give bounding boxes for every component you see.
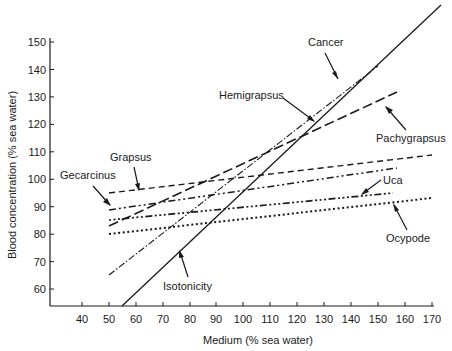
svg-text:130: 130: [28, 91, 46, 103]
annotation-gecarcinus: Gecarcinus: [60, 169, 116, 206]
annotation-ocypode: Ocypode: [386, 203, 430, 244]
svg-text:100: 100: [234, 313, 252, 325]
svg-text:130: 130: [315, 313, 333, 325]
chart: 150 140 130 120 110 100 90 80 70 60 40 5…: [0, 0, 452, 351]
svg-text:120: 120: [28, 118, 46, 130]
svg-text:80: 80: [184, 313, 196, 325]
annotation-uca: Uca: [361, 174, 403, 195]
svg-text:140: 140: [28, 64, 46, 76]
annotation-cancer: Cancer: [308, 36, 344, 79]
line-cancer-isotonicity: [122, 5, 441, 306]
svg-text:40: 40: [76, 313, 88, 325]
svg-text:90: 90: [210, 313, 222, 325]
svg-text:70: 70: [34, 256, 46, 268]
annotation-isotonicity: Isotonicity: [163, 250, 212, 292]
svg-text:150: 150: [28, 36, 46, 48]
svg-text:70: 70: [157, 313, 169, 325]
arrowhead-icon: [393, 203, 399, 212]
svg-text:50: 50: [103, 313, 115, 325]
svg-text:120: 120: [288, 313, 306, 325]
svg-text:90: 90: [34, 201, 46, 213]
svg-text:100: 100: [28, 173, 46, 185]
svg-text:170: 170: [423, 313, 441, 325]
svg-text:110: 110: [28, 146, 46, 158]
svg-text:Gecarcinus: Gecarcinus: [60, 169, 116, 181]
svg-text:110: 110: [261, 313, 279, 325]
svg-text:Isotonicity: Isotonicity: [163, 280, 212, 292]
svg-text:60: 60: [34, 283, 46, 295]
y-tick-labels: 150 140 130 120 110 100 90 80 70 60: [28, 36, 46, 295]
line-pachygrapsus: [109, 92, 397, 226]
y-axis-label: Blood concentration (% sea water): [6, 91, 18, 259]
arrowhead-icon: [332, 71, 338, 79]
svg-text:Cancer: Cancer: [308, 36, 344, 48]
line-ocypode: [109, 198, 432, 234]
svg-text:80: 80: [34, 228, 46, 240]
annotation-hemigrapsus: Hemigrapsus: [219, 89, 315, 122]
svg-text:60: 60: [130, 313, 142, 325]
annotation-pachygrapsus: Pachygrapsus: [376, 106, 446, 144]
svg-text:Pachygrapsus: Pachygrapsus: [376, 132, 446, 144]
svg-text:Uca: Uca: [383, 174, 403, 186]
annotation-grapsus: Grapsus: [110, 151, 152, 191]
svg-text:Ocypode: Ocypode: [386, 232, 430, 244]
svg-text:Hemigrapsus: Hemigrapsus: [219, 89, 284, 101]
svg-text:Grapsus: Grapsus: [110, 151, 152, 163]
arrowhead-icon: [179, 250, 184, 258]
line-gecarcinus: [109, 168, 397, 210]
svg-text:150: 150: [369, 313, 387, 325]
svg-text:160: 160: [396, 313, 414, 325]
x-axis-label: Medium (% sea water): [203, 334, 313, 346]
svg-text:140: 140: [342, 313, 360, 325]
x-tick-labels: 40 50 60 70 80 90 100 110 120 130 140 15…: [76, 313, 441, 325]
